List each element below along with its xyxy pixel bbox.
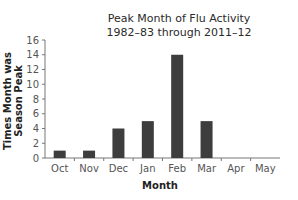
bar-nov <box>83 151 95 158</box>
y-tick-label: 4 <box>33 123 39 134</box>
x-tick-label: Feb <box>168 163 186 174</box>
x-tick-label: Dec <box>109 163 128 174</box>
x-tick-label: Apr <box>227 163 245 174</box>
bar-jan <box>142 121 154 158</box>
bar-dec <box>112 129 124 159</box>
y-tick-label: 14 <box>26 49 39 60</box>
y-tick-label: 12 <box>26 64 39 75</box>
y-tick-label: 6 <box>33 108 39 119</box>
y-tick-label: 10 <box>26 79 39 90</box>
bar-oct <box>54 151 66 158</box>
y-tick-label: 8 <box>33 94 39 105</box>
x-tick-label: May <box>255 163 276 174</box>
y-tick-label: 0 <box>33 153 39 164</box>
y-tick-label: 2 <box>33 138 39 149</box>
x-tick-label: Oct <box>51 163 68 174</box>
y-tick-label: 16 <box>26 35 39 46</box>
x-tick-label: Mar <box>197 163 217 174</box>
bar-mar <box>201 121 213 158</box>
x-tick-label: Jan <box>139 163 155 174</box>
plot-area: 0246810121416OctNovDecJanFebMarAprMay <box>0 0 298 200</box>
x-tick-label: Nov <box>79 163 99 174</box>
bar-feb <box>171 55 183 158</box>
